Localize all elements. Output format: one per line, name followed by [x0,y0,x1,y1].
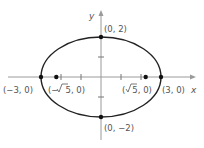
left-focus-point [54,75,58,79]
left-vertex-point [39,75,43,79]
bottom-vertex-point [99,115,103,119]
y-axis-arrow-icon [99,10,104,16]
y-axis-label: y [88,11,95,21]
left-focus-label: (−5, 0) [48,84,85,95]
bottom-vertex-label: (0, −2) [104,123,134,133]
top-vertex-point [99,35,103,39]
left-vertex-label: (−3, 0) [3,85,33,95]
right-focus-label: (5, 0) [122,84,152,95]
x-axis-arrow-icon [190,75,196,80]
right-vertex-label: (3, 0) [162,85,185,95]
ellipse-diagram: y x (0, 2) (0, −2) (−3, 0) (3, 0) (−5, 0… [0,0,204,148]
x-axis-label: x [190,85,197,95]
top-vertex-label: (0, 2) [104,24,127,34]
right-focus-point [144,75,148,79]
right-vertex-point [159,75,163,79]
svg-text:(−5, 0): (−5, 0) [48,85,85,95]
